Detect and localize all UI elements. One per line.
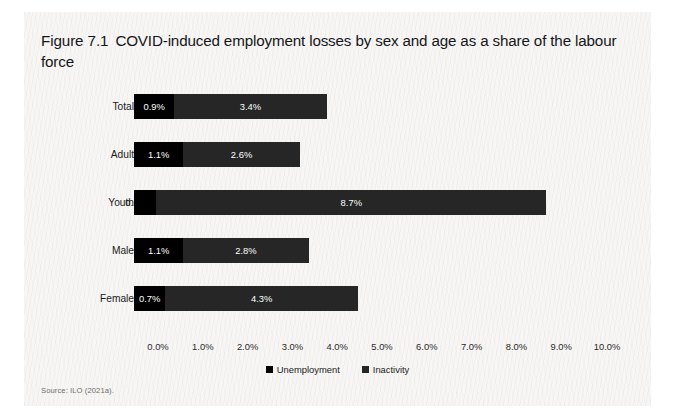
bar-value-label-unemployment-male: 1.1%	[134, 238, 183, 263]
category-label-adult: Adult	[14, 142, 134, 167]
chart-legend: Unemployment Inactivity	[24, 364, 651, 375]
bar-row-youth: Youth 0. 8.7%	[24, 190, 651, 215]
category-label-total: Total	[14, 94, 134, 119]
bar-segment-unemployment-female[interactable]: 0.7%	[134, 286, 165, 311]
x-tick-8: 8.0%	[506, 340, 527, 354]
bar-value-label-unemployment-youth: 0.	[125, 190, 134, 215]
x-tick-2: 2.0%	[237, 340, 258, 354]
x-tick-5: 5.0%	[371, 340, 392, 354]
bar-value-label-inactivity-youth: 8.7%	[156, 190, 546, 215]
figure-number: Figure 7.1	[41, 32, 108, 49]
x-axis: 0.0% 1.0% 2.0% 3.0% 4.0% 5.0% 6.0% 7.0% …	[134, 340, 651, 360]
bar-value-label-inactivity-total: 3.4%	[174, 94, 326, 119]
bar-segment-inactivity-adult[interactable]: 2.6%	[183, 142, 300, 167]
stacked-bar-total: 0.9% 3.4%	[134, 94, 651, 119]
x-tick-1: 1.0%	[192, 340, 213, 354]
bar-row-total: Total 0.9% 3.4%	[24, 94, 651, 119]
legend-label-inactivity: Inactivity	[373, 364, 409, 375]
bar-segment-unemployment-male[interactable]: 1.1%	[134, 238, 183, 263]
source-note: Source: ILO (2021a).	[41, 386, 114, 395]
bar-row-male: Male 1.1% 2.8%	[24, 238, 651, 263]
stacked-bar-female: 0.7% 4.3%	[134, 286, 651, 311]
x-tick-3: 3.0%	[282, 340, 303, 354]
category-label-male: Male	[14, 238, 134, 263]
bar-segment-inactivity-male[interactable]: 2.8%	[183, 238, 308, 263]
bar-segment-inactivity-female[interactable]: 4.3%	[165, 286, 358, 311]
category-label-youth: Youth	[14, 190, 134, 215]
bar-row-female: Female 0.7% 4.3%	[24, 286, 651, 311]
x-tick-6: 6.0%	[416, 340, 437, 354]
legend-swatch-unemployment-icon	[266, 366, 273, 373]
figure-title-text: COVID-induced employment losses by sex a…	[41, 32, 616, 70]
legend-item-inactivity[interactable]: Inactivity	[362, 364, 409, 375]
x-tick-4: 4.0%	[327, 340, 348, 354]
chart-plot-area: Total 0.9% 3.4% Adult 1.1% 2.6%	[24, 90, 651, 340]
x-tick-9: 9.0%	[551, 340, 572, 354]
legend-label-unemployment: Unemployment	[277, 364, 340, 375]
stacked-bar-adult: 1.1% 2.6%	[134, 142, 651, 167]
legend-swatch-inactivity-icon	[362, 366, 369, 373]
bar-segment-inactivity-youth[interactable]: 8.7%	[156, 190, 546, 215]
category-label-female: Female	[14, 286, 134, 311]
bar-segment-unemployment-youth[interactable]: 0.	[134, 190, 156, 215]
bar-value-label-inactivity-adult: 2.6%	[183, 142, 300, 167]
bar-segment-unemployment-adult[interactable]: 1.1%	[134, 142, 183, 167]
bar-value-label-inactivity-male: 2.8%	[183, 238, 308, 263]
stacked-bar-youth: 0. 8.7%	[134, 190, 651, 215]
x-tick-7: 7.0%	[461, 340, 482, 354]
x-tick-0: 0.0%	[147, 340, 168, 354]
bar-value-label-unemployment-female: 0.7%	[134, 286, 165, 311]
bar-row-adult: Adult 1.1% 2.6%	[24, 142, 651, 167]
figure-title: Figure 7.1COVID-induced employment losse…	[41, 30, 633, 72]
bar-segment-inactivity-total[interactable]: 3.4%	[174, 94, 326, 119]
figure-card: Figure 7.1COVID-induced employment losse…	[24, 12, 651, 406]
bar-value-label-inactivity-female: 4.3%	[165, 286, 358, 311]
legend-item-unemployment[interactable]: Unemployment	[266, 364, 340, 375]
bar-value-label-unemployment-total: 0.9%	[134, 94, 174, 119]
stacked-bar-male: 1.1% 2.8%	[134, 238, 651, 263]
x-tick-10: 10.0%	[594, 340, 621, 354]
bar-segment-unemployment-total[interactable]: 0.9%	[134, 94, 174, 119]
bar-value-label-unemployment-adult: 1.1%	[134, 142, 183, 167]
